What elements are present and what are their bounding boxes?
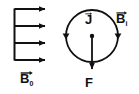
label-j: J — [85, 11, 92, 27]
vector-arrow-j-icon — [85, 11, 92, 16]
vector-arrow-bi-icon — [116, 10, 127, 15]
label-bi-subscript: i — [125, 20, 127, 27]
label-b0: B0 — [20, 70, 33, 86]
label-f: F — [85, 74, 93, 90]
vector-arrow-b0-icon — [20, 70, 33, 75]
label-b0-subscript: 0 — [29, 80, 33, 87]
physics-diagram: B0 Bi J F — [0, 0, 139, 94]
loop-arrowhead-left-icon — [63, 33, 70, 39]
label-f-base: F — [85, 75, 93, 90]
loop-arrowhead-right-icon — [115, 33, 122, 39]
label-bi: Bi — [116, 10, 127, 26]
uniform-field-group — [15, 9, 46, 61]
